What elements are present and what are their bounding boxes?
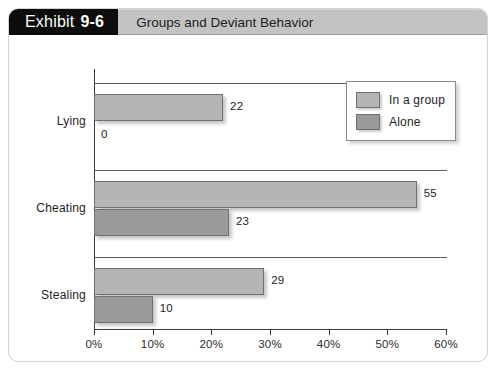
bar-stealing-alone [94, 296, 153, 323]
bar-cheating-in-a-group [94, 181, 417, 208]
bar-stealing-in-a-group [94, 268, 264, 295]
exhibit-frame: Exhibit 9-6 Groups and Deviant Behavior … [8, 8, 488, 362]
x-axis-tick [387, 330, 388, 335]
category-label-lying: Lying [8, 114, 86, 128]
bar-value-lying-alone: 0 [101, 128, 108, 140]
bar-value-cheating-alone: 23 [236, 215, 249, 227]
bar-value-stealing-in-a-group: 29 [271, 274, 284, 286]
x-axis-tick [270, 330, 271, 335]
x-axis-tick-label: 50% [365, 338, 409, 350]
legend-item-in-a-group: In a group [356, 89, 445, 111]
legend-swatch-icon [356, 92, 380, 108]
exhibit-badge: Exhibit 9-6 [9, 9, 118, 35]
plot-region: 0%10%20%30%40%50%60%Lying220Cheating5523… [9, 35, 487, 362]
legend-label: In a group [389, 93, 445, 107]
x-axis-tick-label: 40% [307, 338, 351, 350]
x-axis-tick-label: 20% [189, 338, 233, 350]
legend-item-alone: Alone [356, 111, 445, 133]
x-axis-tick-label: 30% [248, 338, 292, 350]
exhibit-badge-label: Exhibit [25, 13, 74, 31]
bar-value-cheating-in-a-group: 55 [424, 187, 437, 199]
legend-label: Alone [389, 115, 421, 129]
x-axis-tick-label: 10% [131, 338, 175, 350]
bar-chart: 0%10%20%30%40%50%60%Lying220Cheating5523… [9, 35, 487, 362]
x-axis-tick-label: 0% [72, 338, 116, 350]
bar-lying-in-a-group [94, 94, 223, 121]
exhibit-header: Exhibit 9-6 Groups and Deviant Behavior [9, 9, 487, 35]
bar-value-lying-in-a-group: 22 [230, 100, 243, 112]
category-separator-line [94, 257, 447, 258]
x-axis-tick [153, 330, 154, 335]
category-separator-line [94, 170, 447, 171]
exhibit-title-bar: Groups and Deviant Behavior [118, 9, 487, 35]
bar-value-stealing-alone: 10 [160, 302, 173, 314]
x-axis-tick-label: 60% [424, 338, 468, 350]
legend-swatch-icon [356, 114, 380, 130]
chart-legend: In a groupAlone [346, 81, 456, 141]
category-label-stealing: Stealing [8, 288, 86, 302]
exhibit-badge-number: 9-6 [80, 13, 104, 31]
x-axis-tick [94, 330, 95, 335]
exhibit-title: Groups and Deviant Behavior [136, 15, 313, 30]
x-axis-tick [329, 330, 330, 335]
category-label-cheating: Cheating [8, 201, 86, 215]
x-axis-tick [446, 330, 447, 335]
bar-cheating-alone [94, 209, 229, 236]
x-axis-tick [211, 330, 212, 335]
